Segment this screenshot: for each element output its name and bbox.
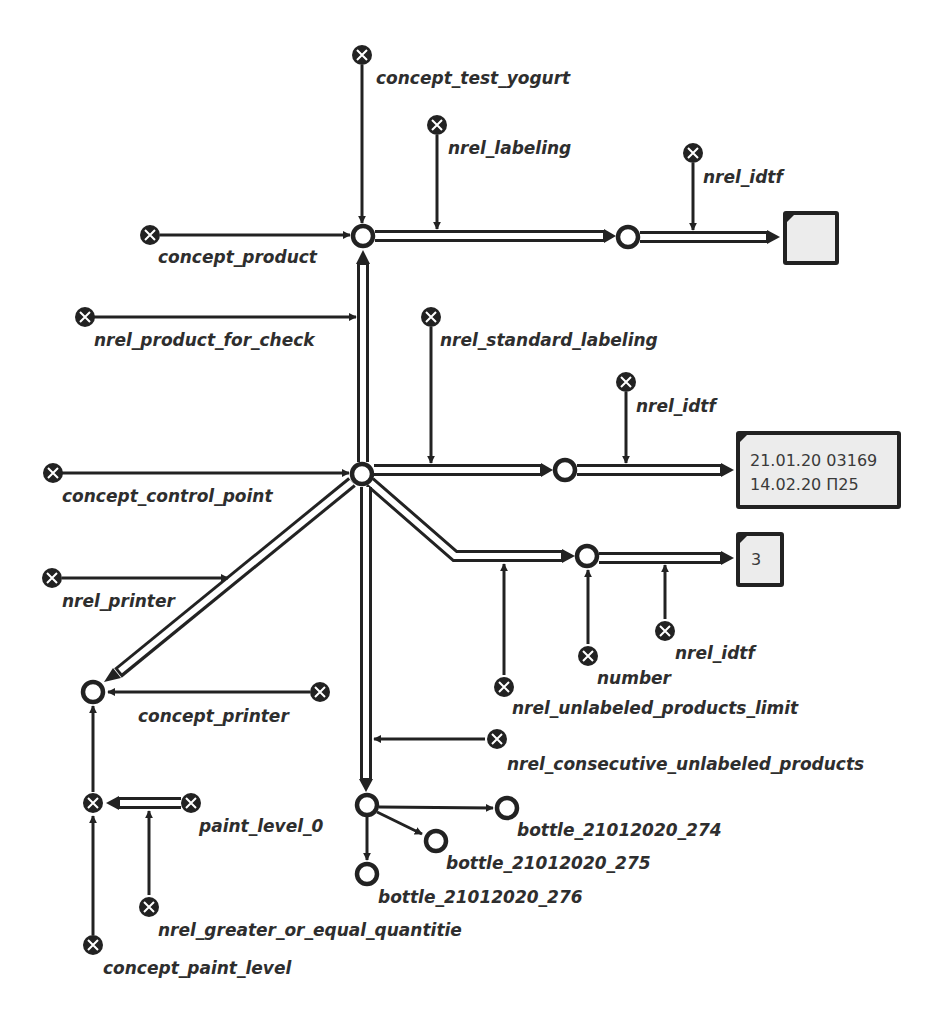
node-nrel-greater-or-equal-quantitie[interactable]	[139, 897, 159, 917]
link-corner-icon	[740, 435, 747, 442]
node-limit-pair[interactable]	[577, 546, 597, 566]
link-box-top[interactable]	[783, 211, 839, 265]
node-nrel-product-for-check[interactable]	[75, 307, 95, 327]
node-nrel-consecutive-unlabeled-products[interactable]	[487, 729, 507, 749]
label-nrel-product-for-check: nrel_product_for_check	[94, 330, 315, 350]
node-concept-printer[interactable]	[310, 682, 330, 702]
node-concept-control-point[interactable]	[43, 463, 63, 483]
label-nrel-unlabeled-products-limit: nrel_unlabeled_products_limit	[512, 698, 798, 718]
label-nrel-idtf-1: nrel_idtf	[703, 167, 783, 187]
label-concept-product: concept_product	[158, 247, 317, 267]
node-bottle-274[interactable]	[497, 798, 517, 818]
pair-arc-paint-level	[106, 796, 181, 810]
node-paint-level-0[interactable]	[181, 793, 201, 813]
label-bottle-274: bottle_21012020_274	[517, 820, 722, 840]
label-concept-printer: concept_printer	[138, 706, 289, 726]
node-control-point[interactable]	[352, 464, 372, 484]
node-concept-paint-level[interactable]	[83, 935, 103, 955]
node-bottle-275[interactable]	[426, 831, 446, 851]
node-nrel-standard-labeling[interactable]	[421, 307, 441, 327]
label-nrel-labeling: nrel_labeling	[448, 138, 571, 158]
label-nrel-standard-labeling: nrel_standard_labeling	[440, 330, 658, 350]
node-nrel-idtf-1[interactable]	[683, 143, 703, 163]
pair-arc-number	[599, 551, 734, 565]
node-nrel-idtf-3[interactable]	[655, 621, 675, 641]
node-nrel-printer[interactable]	[42, 568, 62, 588]
node-top-link-pair[interactable]	[618, 227, 638, 247]
link-box-dates[interactable]: 21.01.20 03169 14.02.20 П25	[736, 431, 901, 509]
label-number: number	[597, 668, 671, 688]
node-nrel-idtf-2[interactable]	[616, 372, 636, 392]
label-paint-level-0: paint_level_0	[199, 816, 323, 836]
pair-arc-mid-2	[577, 463, 734, 477]
node-bottle-set[interactable]	[357, 795, 377, 815]
label-bottle-276: bottle_21012020_276	[378, 887, 583, 907]
node-printer[interactable]	[83, 682, 103, 702]
arc-bottle-274	[379, 807, 493, 808]
pair-arc-printer	[104, 482, 352, 682]
label-concept-control-point: concept_control_point	[62, 486, 273, 506]
pair-arc-top-2	[640, 230, 780, 244]
node-concept-product[interactable]	[140, 225, 160, 245]
pair-arc-vertical-up	[356, 250, 370, 462]
pair-arc-mid-1	[374, 463, 553, 477]
pair-arc-top-1	[375, 229, 616, 243]
node-dates-pair[interactable]	[555, 460, 575, 480]
label-nrel-greater-or-equal-quantitie: nrel_greater_or_equal_quantitie	[158, 920, 462, 940]
node-number[interactable]	[578, 646, 598, 666]
link-box-number[interactable]: 3	[736, 532, 784, 587]
node-top-tuple[interactable]	[353, 226, 373, 246]
link-text-number: 3	[751, 548, 761, 572]
arc-bottle-275	[377, 812, 422, 834]
link-text-line2: 14.02.20 П25	[750, 473, 859, 497]
node-paint-level-set[interactable]	[83, 793, 103, 813]
label-nrel-consecutive-unlabeled-products: nrel_consecutive_unlabeled_products	[507, 754, 864, 774]
label-nrel-printer: nrel_printer	[62, 591, 175, 611]
pair-arc-vertical-down	[359, 487, 373, 792]
label-nrel-idtf-2: nrel_idtf	[636, 396, 716, 416]
node-concept-test-yogurt[interactable]	[352, 45, 372, 65]
link-corner-icon	[787, 215, 794, 222]
label-concept-paint-level: concept_paint_level	[103, 958, 291, 978]
pair-arc-bent	[370, 482, 575, 563]
label-nrel-idtf-3: nrel_idtf	[675, 643, 755, 663]
label-concept-test-yogurt: concept_test_yogurt	[376, 68, 570, 88]
link-corner-icon	[740, 536, 747, 543]
link-text-line1: 21.01.20 03169	[750, 449, 877, 473]
node-nrel-labeling[interactable]	[427, 115, 447, 135]
label-bottle-275: bottle_21012020_275	[446, 853, 651, 873]
node-nrel-unlabeled-products-limit[interactable]	[494, 677, 514, 697]
node-bottle-276[interactable]	[357, 864, 377, 884]
